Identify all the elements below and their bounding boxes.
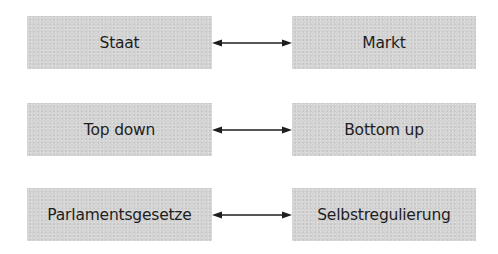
bidirectional-arrow-icon bbox=[212, 125, 292, 135]
bidirectional-arrow-icon bbox=[212, 38, 292, 48]
box-label: Staat bbox=[100, 34, 140, 52]
bidirectional-arrow-icon bbox=[212, 210, 292, 220]
box-label: Markt bbox=[362, 34, 405, 52]
box-label: Bottom up bbox=[344, 121, 424, 139]
box-markt: Markt bbox=[292, 16, 476, 69]
box-label: Top down bbox=[84, 121, 155, 139]
box-staat: Staat bbox=[27, 16, 212, 69]
box-parlamentsgesetze: Parlamentsgesetze bbox=[27, 188, 212, 241]
box-top-down: Top down bbox=[27, 103, 212, 156]
box-selbstregulierung: Selbstregulierung bbox=[292, 188, 476, 241]
box-label: Selbstregulierung bbox=[317, 206, 451, 224]
box-label: Parlamentsgesetze bbox=[47, 206, 191, 224]
box-bottom-up: Bottom up bbox=[292, 103, 476, 156]
